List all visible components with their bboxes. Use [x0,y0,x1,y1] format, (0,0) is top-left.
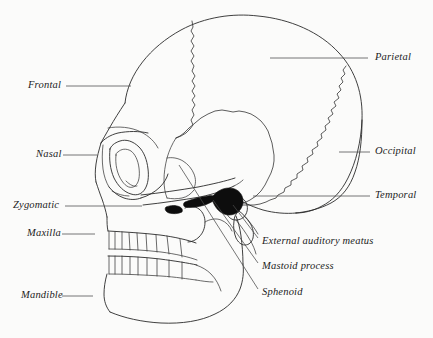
label-zygomatic: Zygomatic [13,200,59,211]
mandible-ramus-anterior [196,265,221,291]
label-sphenoid: Sphenoid [262,287,303,298]
label-mandible: Mandible [21,290,63,301]
tooth-divider-u8 [180,239,182,257]
label-parietal: Parietal [375,52,411,63]
sphenoid-greater-wing [167,158,196,188]
nasal-bridge-line [102,145,109,187]
supraorbital-ridge [101,132,148,144]
tooth-divider-u3 [129,233,130,250]
orbit-outer-rim [110,140,149,195]
mandible-oblique-line [196,280,213,282]
tooth-divider-u6 [156,235,157,252]
occipital-posterior-border [296,120,362,213]
label-temporal: Temporal [375,190,416,201]
nasal-bone [95,143,101,182]
tooth-divider-u4 [137,233,138,250]
label-external-auditory-meatus: External auditory meatus [262,236,374,247]
coronoid-process [185,207,205,242]
tooth-divider-u5 [146,234,147,251]
label-mastoid-process: Mastoid process [262,261,334,272]
leader-sphenoid [179,165,258,289]
temporal-squama-anterior-border [164,138,176,198]
nasal-lateral-margin [96,182,107,217]
tooth-divider-u7 [167,236,169,254]
lambdoid-suture [232,66,346,205]
zygomatic-root-shadow [165,206,182,214]
mandibular-teeth-row-lower-border [109,274,196,280]
skull-diagram-figure: Frontal Nasal Zygomatic Maxilla Mandible… [0,0,433,338]
skull-illustration [0,0,433,338]
coronal-suture [176,21,195,138]
frontal-temporal-line [108,127,158,148]
label-occipital: Occipital [375,146,416,157]
cranial-vault-outline [125,15,362,213]
orbit-inner-margin [116,149,140,187]
maxilla-alveolar-arch [108,231,196,243]
maxilla-anterior-border [107,217,108,231]
label-frontal: Frontal [28,80,61,91]
label-maxilla: Maxilla [27,228,61,239]
zygomatic-arch-root [234,180,243,186]
label-nasal: Nasal [36,149,62,160]
mandible-anterior-border [104,274,110,312]
nasal-aperture-edge [109,187,141,200]
frontal-bone-anterior-border [101,103,125,143]
mandibular-alveolar-arch [108,256,197,265]
